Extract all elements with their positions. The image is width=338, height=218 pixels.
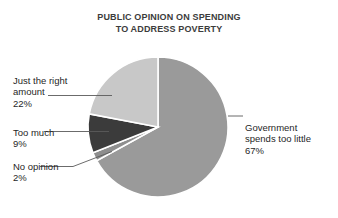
callout-government-spends-too-little-percent: 67% <box>245 145 337 157</box>
callout-just-the-right-amount: Just the right amount 22% <box>13 63 108 121</box>
callout-government-spends-too-little-text: Government spends too little <box>245 122 311 145</box>
callout-no-opinion-percent: 2% <box>13 172 108 184</box>
callout-government-spends-too-little: Government spends too little 67% <box>245 110 337 168</box>
callout-no-opinion-text: No opinion <box>13 161 58 172</box>
callout-just-the-right-amount-percent: 22% <box>13 98 108 110</box>
callout-too-much-percent: 9% <box>13 138 108 150</box>
callout-no-opinion: No opinion 2% <box>13 149 108 195</box>
callout-too-much-text: Too much <box>13 127 54 138</box>
pie-chart-figure: PUBLIC OPINION ON SPENDING TO ADDRESS PO… <box>0 0 338 218</box>
callout-just-the-right-amount-text: Just the right amount <box>13 75 67 98</box>
